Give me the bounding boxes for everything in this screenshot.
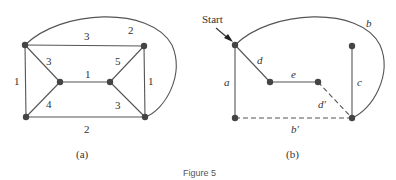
node-b-inner-left (267, 79, 273, 85)
node-a-bottom-right (142, 114, 148, 120)
edge-a-il-bl (26, 82, 60, 117)
weight-a-ir-tr: 5 (115, 55, 121, 67)
weight-a-ir-br: 3 (115, 99, 121, 111)
node-b-inner-right (315, 79, 321, 85)
weight-a-top: 3 (84, 30, 90, 42)
edge-a-tl-il (25, 45, 60, 82)
label-b-d: d (257, 54, 263, 66)
panel-b-graph: Start a b c d e d′ b′ (b) (202, 13, 384, 161)
node-a-top-left (22, 42, 28, 48)
node-b-top-right (349, 43, 355, 49)
edge-a-left (25, 45, 26, 117)
figure-caption: Figure 5 (183, 168, 216, 178)
panel-a-graph: 3 2 1 3 1 4 5 3 1 2 (a) (14, 17, 176, 161)
edge-a-top (25, 45, 144, 46)
edge-b-d (235, 45, 270, 82)
node-b-top-left (232, 42, 238, 48)
node-b-bottom-right (349, 115, 355, 121)
weight-a-middle: 1 (85, 68, 91, 80)
node-a-top-right (141, 43, 147, 49)
weight-a-curve: 2 (128, 24, 134, 36)
figure-5: 3 2 1 3 1 4 5 3 1 2 (a) Start a b c d e (0, 0, 396, 180)
weight-a-right: 1 (148, 75, 154, 87)
weight-a-left: 1 (14, 75, 20, 87)
node-a-inner-right (107, 79, 113, 85)
label-b-e: e (291, 68, 296, 80)
node-a-inner-left (57, 79, 63, 85)
weight-a-tl-il: 3 (46, 55, 52, 67)
edge-b-curve (235, 17, 384, 118)
start-label: Start (202, 13, 223, 25)
label-b-a: a (224, 76, 230, 88)
node-a-bottom-left (23, 114, 29, 120)
node-b-bottom-left (232, 115, 238, 121)
edge-a-right (144, 46, 145, 117)
label-b-d-prime: d′ (318, 98, 327, 110)
panel-a-label: (a) (76, 148, 89, 161)
label-b-b-prime: b′ (291, 123, 300, 135)
weight-a-bottom: 2 (84, 123, 90, 135)
weight-a-il-bl: 4 (46, 98, 52, 110)
label-b-c: c (357, 76, 362, 88)
label-b-b: b (366, 17, 372, 29)
panel-b-label: (b) (286, 148, 299, 161)
